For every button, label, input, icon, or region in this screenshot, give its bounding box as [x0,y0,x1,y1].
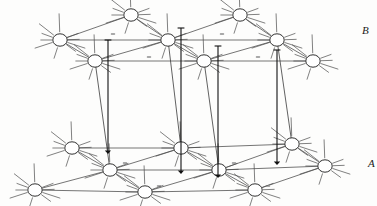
lower-stub [104,178,107,188]
upper-mark [220,33,225,35]
upper-stub [89,69,92,79]
upper-stub [130,0,131,7]
lower-stub [194,173,211,179]
upper-stub [186,54,196,58]
lower-stub [271,128,285,139]
upper-atom [270,34,284,46]
upper-stub [252,43,269,49]
lower-stub [109,144,110,162]
lower-atom [212,164,226,176]
lower-stub [274,137,284,141]
upper-stub [70,64,87,70]
upper-stub [198,69,201,79]
lower-stub [80,141,90,145]
upper-stub [35,43,52,49]
upper-stub [102,66,111,72]
upper-stub [256,24,270,35]
upper-stub [248,8,258,12]
lower-layer-atoms [28,138,332,198]
interlayer-pillar [204,61,219,170]
lower-stub [299,149,308,155]
upper-stub [167,14,168,32]
upper-stub [288,64,305,70]
upper-atom [197,55,211,67]
lower-atom [248,184,262,196]
lower-stub [120,195,137,201]
lattice-figure: B A [0,0,377,206]
upper-stub [219,0,233,10]
upper-stub [276,14,277,32]
upper-stub [113,8,123,12]
upper-stub [203,35,204,53]
lower-stub [300,137,310,141]
upper-stub [138,20,147,26]
upper-mark [256,56,261,58]
upper-stub [271,48,274,58]
upper-stub [321,54,331,58]
upper-stub [59,14,60,32]
upper-stub [320,66,329,72]
upper-atom [161,34,175,46]
lower-bond [35,170,110,190]
lower-stub [237,183,247,187]
upper-stub [247,20,256,26]
upper-stub [307,69,310,79]
lower-stub [51,132,65,143]
lower-stub [85,173,102,179]
lower-stub [230,193,247,199]
lower-stub [71,122,72,140]
upper-atom [124,9,138,21]
lower-stub [201,163,211,167]
lower-stub [300,169,317,175]
lower-atom [285,138,299,150]
lower-stub [175,156,178,166]
lower-stub [189,141,199,145]
upper-atom [53,34,67,46]
upper-stub [222,8,232,12]
lower-stub [47,151,64,157]
lower-stub [124,176,138,187]
interlayer-pillar [277,40,292,144]
upper-stub [285,33,295,37]
upper-stub [39,24,53,35]
upper-stub [42,33,52,37]
lower-stub [92,163,102,167]
upper-stub [312,35,313,53]
upper-stub [125,23,128,33]
interlayer-pillars [95,40,292,170]
lower-stub [118,163,128,167]
upper-stub [234,23,237,33]
lower-stub [139,200,142,206]
lower-stub [17,183,27,187]
lower-stub [304,150,318,161]
upper-stub [179,64,196,70]
upper-stub [77,54,87,58]
lower-stub [14,174,28,185]
lower-atom [65,142,79,154]
upper-layer-atoms [53,9,320,67]
upper-stub [143,43,160,49]
upper-atom [88,55,102,67]
lower-stub [213,178,216,188]
upper-stub [110,0,124,10]
lower-atom [138,186,152,198]
upper-stub [139,8,149,12]
upper-mark [147,56,152,58]
upper-mark [111,33,116,35]
lower-layer-stubs [10,118,350,206]
upper-stub [162,48,165,58]
lower-stub [332,171,341,177]
lower-stub [10,193,27,199]
lower-stub [163,141,173,145]
lower-stub [319,174,322,184]
lower-stub [262,195,271,201]
lattice-canvas [0,0,377,206]
lower-stub [227,163,237,167]
lower-stub [144,166,145,184]
lower-stub [286,152,289,162]
spin-arrows [105,28,281,176]
lower-stub [249,198,252,206]
upper-bond [95,40,168,61]
lower-stub [34,164,35,182]
upper-stub [74,45,88,56]
